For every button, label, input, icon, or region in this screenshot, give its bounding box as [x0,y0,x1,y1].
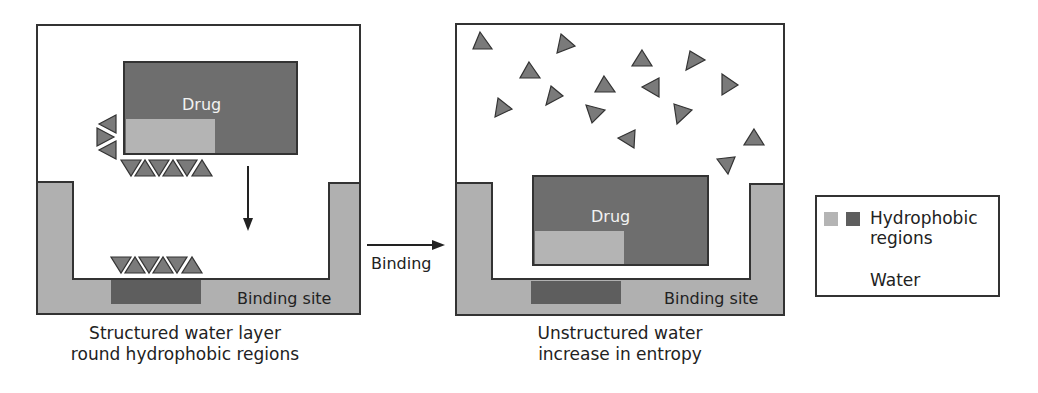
legend: Hydrophobic regions Water [815,195,1000,297]
right-binding-pocket [531,281,621,304]
right-caption-line2: increase in entropy [470,344,770,365]
right-drug-hydrophobic-region [535,231,624,264]
legend-hydrophobic-label: Hydrophobic regions [870,208,977,248]
legend-hydrophobic-line2: regions [870,228,977,248]
legend-dark-hydrophobic-swatch [846,212,860,226]
binding-arrow-icon [367,240,445,250]
legend-light-hydrophobic-swatch [824,212,838,226]
left-binding-pocket [111,280,201,304]
right-panel [456,24,784,315]
right-binding-site-label: Binding site [664,289,758,308]
right-caption-line1: Unstructured water [470,323,770,344]
legend-hydrophobic-line1: Hydrophobic [870,208,977,228]
left-drug-hydrophobic-region [126,119,215,153]
left-caption-line1: Structured water layer [30,323,340,344]
legend-water-label: Water [870,270,920,290]
left-binding-site-label: Binding site [237,289,331,308]
left-caption: Structured water layer round hydrophobic… [30,323,340,365]
right-caption: Unstructured water increase in entropy [470,323,770,365]
left-panel [37,25,360,314]
right-drug-label: Drug [591,207,630,226]
left-caption-line2: round hydrophobic regions [30,344,340,365]
binding-arrow-label: Binding [371,254,431,273]
left-drug-label: Drug [182,95,221,114]
right-panel-frame [456,24,784,315]
